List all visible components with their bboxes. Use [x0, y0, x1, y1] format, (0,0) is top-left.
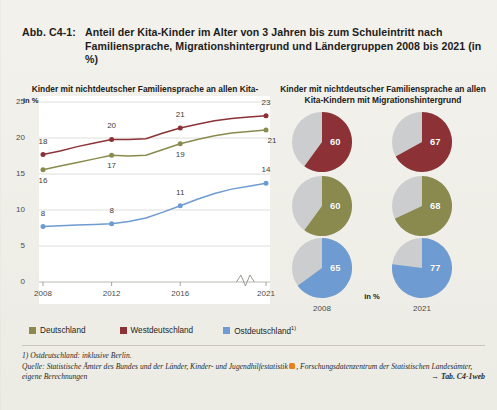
pie-chart: 60: [292, 112, 352, 172]
pie-unit-label: in %: [364, 292, 380, 301]
axis-break-marker: [236, 275, 254, 286]
data-label: 8: [109, 206, 113, 215]
pie-svg: [392, 112, 452, 172]
table-reference-link[interactable]: → Tab. C4-1web: [431, 372, 485, 383]
legend-footnote-marker: 1): [291, 325, 296, 331]
pie-svg: [292, 112, 352, 172]
footnotes: 1) Ostdeutschland: inklusive Berlin. Que…: [22, 351, 485, 383]
x-tick-label: 2008: [34, 289, 52, 298]
data-point: [109, 153, 114, 158]
source-text-part1: Quelle: Statistische Ämter des Bundes un…: [22, 362, 288, 371]
line-chart-svg: [39, 96, 270, 304]
footnote-note: 1) Ostdeutschland: inklusive Berlin.: [22, 351, 485, 362]
data-label: 20: [107, 121, 116, 130]
y-tick-label: 5: [3, 241, 25, 250]
data-point: [41, 224, 46, 229]
legend-label: Ostdeutschland1): [234, 325, 296, 336]
pie-chart: 60: [292, 176, 352, 236]
data-point: [264, 113, 269, 118]
footer-divider: [22, 345, 485, 346]
data-point: [109, 137, 114, 142]
pie-value-label: 60: [330, 136, 340, 147]
x-tick-label: 2016: [171, 289, 189, 298]
line-series-westdeutschland: [43, 116, 266, 155]
page-title: Anteil der Kita-Kinder im Alter von 3 Ja…: [85, 26, 483, 67]
line-chart: 0510152025 2008201220162021 182021231617…: [39, 96, 270, 304]
data-point: [41, 167, 46, 172]
y-tick-label: 0: [3, 277, 25, 286]
pie-chart: 68: [392, 176, 452, 236]
data-label: 8: [41, 209, 45, 218]
data-point: [109, 221, 114, 226]
pie-column-year: 2021: [413, 304, 431, 313]
data-point: [178, 141, 183, 146]
y-tick-label: 25: [3, 97, 25, 106]
pie-svg: [292, 176, 352, 236]
pie-svg: [392, 176, 452, 236]
line-chart-unit-label: in %: [23, 96, 39, 105]
legend: DeutschlandWestdeutschlandOstdeutschland…: [29, 325, 296, 336]
pie-value-label: 68: [430, 200, 440, 211]
legend-item-ostdeutschland: Ostdeutschland1): [223, 325, 296, 336]
figure-number: Abb. C4-1:: [22, 26, 76, 38]
data-label: 11: [176, 188, 184, 197]
pie-chart-grid: 60676068657720082021in %: [274, 108, 492, 304]
x-tick-label: 2021: [257, 289, 275, 298]
pie-svg: [292, 238, 352, 298]
data-point: [178, 203, 183, 208]
legend-item-westdeutschland: Westdeutschland: [120, 326, 194, 335]
y-tick-label: 20: [3, 133, 25, 142]
pie-chart: 67: [392, 112, 452, 172]
pie-chart: 77: [392, 238, 452, 298]
y-tick-label: 10: [3, 205, 25, 214]
data-point: [264, 181, 269, 186]
legend-item-deutschland: Deutschland: [29, 326, 86, 335]
data-label: 18: [39, 137, 48, 146]
data-label: 19: [176, 150, 185, 159]
pie-value-label: 60: [330, 200, 340, 211]
pie-panel-title: Kinder mit nichtdeutscher Familiensprach…: [274, 84, 492, 105]
x-tick-label: 2012: [103, 289, 121, 298]
data-point: [264, 128, 269, 133]
legend-label: Deutschland: [40, 326, 86, 335]
y-tick-label: 15: [3, 169, 25, 178]
data-label: 21: [176, 110, 185, 119]
data-label: 23: [262, 98, 271, 107]
legend-swatch: [223, 327, 230, 334]
pie-value-label: 67: [430, 136, 440, 147]
data-icon: [289, 363, 296, 370]
data-point: [178, 125, 183, 130]
data-label: 14: [262, 165, 271, 174]
line-series-ostdeutschland: [43, 183, 266, 226]
data-label: 16: [39, 176, 48, 185]
pie-value-label: 65: [330, 262, 340, 273]
legend-label: Westdeutschland: [131, 326, 194, 335]
pie-svg: [392, 238, 452, 298]
footnote-source: Quelle: Statistische Ämter des Bundes un…: [22, 362, 485, 383]
legend-swatch: [29, 327, 36, 334]
data-label: 17: [107, 161, 116, 170]
pie-column-year: 2008: [313, 304, 331, 313]
pie-chart: 65: [292, 238, 352, 298]
data-point: [41, 152, 46, 157]
figure-container: Abb. C4-1: Anteil der Kita-Kinder im Alt…: [0, 0, 497, 410]
pie-value-label: 77: [430, 262, 440, 273]
figure-header: Abb. C4-1: Anteil der Kita-Kinder im Alt…: [22, 26, 483, 67]
legend-swatch: [120, 327, 127, 334]
